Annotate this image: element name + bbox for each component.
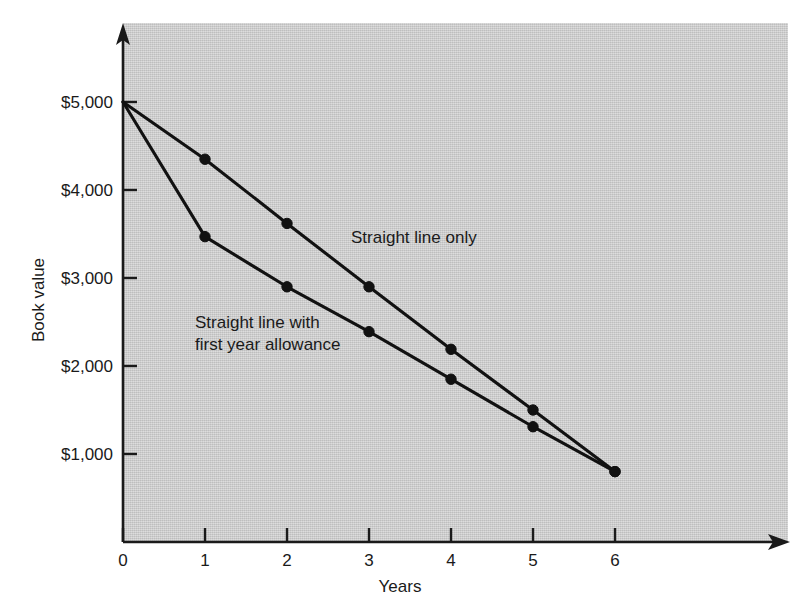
x-axis-title: Years bbox=[379, 577, 422, 596]
y-axis-ticks bbox=[123, 102, 137, 454]
y-tick-label-4000: $4,000 bbox=[61, 181, 113, 200]
x-tick-label-5: 5 bbox=[528, 551, 537, 570]
annotation-first-year-allowance-line-1: Straight line with bbox=[195, 313, 320, 332]
data-point bbox=[528, 405, 538, 415]
data-point bbox=[364, 326, 374, 336]
data-point bbox=[200, 154, 210, 164]
data-point bbox=[282, 218, 292, 228]
annotation-first-year-allowance-line-2: first year allowance bbox=[195, 335, 341, 354]
x-tick-label-6: 6 bbox=[610, 551, 619, 570]
y-axis-title: Book value bbox=[29, 258, 48, 342]
data-point bbox=[364, 282, 374, 292]
x-axis-ticks bbox=[123, 528, 615, 542]
annotation-straight-line-only: Straight line only bbox=[351, 228, 477, 247]
x-axis bbox=[123, 534, 790, 550]
chart-figure: $5,000 $4,000 $3,000 $2,000 $1,000 0 1 2… bbox=[0, 0, 809, 611]
book-value-depreciation-line-chart: $5,000 $4,000 $3,000 $2,000 $1,000 0 1 2… bbox=[0, 0, 809, 611]
y-axis-tick-labels: $5,000 $4,000 $3,000 $2,000 $1,000 bbox=[61, 93, 113, 464]
x-tick-label-4: 4 bbox=[446, 551, 455, 570]
annotation-first-year-allowance: Straight line with first year allowance bbox=[195, 313, 341, 354]
data-point bbox=[200, 231, 210, 241]
y-tick-label-1000: $1,000 bbox=[61, 445, 113, 464]
x-tick-label-2: 2 bbox=[282, 551, 291, 570]
data-point bbox=[528, 422, 538, 432]
data-point bbox=[610, 466, 620, 476]
y-tick-label-3000: $3,000 bbox=[61, 269, 113, 288]
y-tick-label-5000: $5,000 bbox=[61, 93, 113, 112]
x-axis-tick-labels: 0 1 2 3 4 5 6 bbox=[118, 551, 619, 570]
x-tick-label-3: 3 bbox=[364, 551, 373, 570]
data-point bbox=[446, 374, 456, 384]
x-tick-label-1: 1 bbox=[200, 551, 209, 570]
data-point bbox=[446, 344, 456, 354]
data-point bbox=[282, 282, 292, 292]
y-tick-label-2000: $2,000 bbox=[61, 357, 113, 376]
x-tick-label-0: 0 bbox=[118, 551, 127, 570]
